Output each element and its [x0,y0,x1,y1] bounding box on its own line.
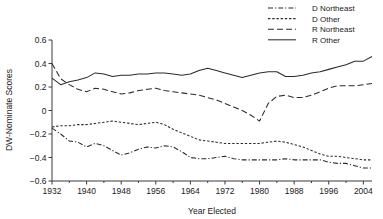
series-line-r-northeast [52,64,372,122]
x-tick-label: 1972 [216,186,235,196]
legend-label-2: R Northeast [312,25,355,34]
series-line-r-other [52,56,372,84]
x-axis-title: Year Elected [188,206,236,216]
x-tick-label: 1956 [146,186,165,196]
series-line-d-other [52,121,372,160]
legend-label-1: D Other [312,15,340,24]
y-tick-label: −0.6 [30,176,47,186]
series-lines [52,56,372,168]
y-tick-label: −0.2 [30,129,47,139]
x-tick-label: 1980 [250,186,269,196]
y-tick-label: 0.6 [35,35,47,45]
chart-canvas: −0.6−0.4−0.200.20.40.6193219401948195619… [0,0,383,219]
y-tick-label: 0.2 [35,82,47,92]
x-tick-label: 2004 [354,186,373,196]
x-tick-label: 1940 [77,186,96,196]
x-tick-label: 1988 [285,186,304,196]
y-tick-label: 0 [42,106,47,116]
x-tick-label: 1964 [181,186,200,196]
x-tick-label: 1932 [43,186,62,196]
series-line-d-northeast [52,128,372,168]
chart-figure: −0.6−0.4−0.200.20.40.6193219401948195619… [0,0,383,219]
y-axis-title: DW-Nominate Scores [4,69,14,151]
x-tick-label: 1996 [319,186,338,196]
x-tick-label: 1948 [112,186,131,196]
legend-label-3: R Other [312,36,340,45]
legend-label-0: D Northeast [312,4,355,13]
y-tick-label: −0.4 [30,153,47,163]
tick-labels: −0.6−0.4−0.200.20.40.6193219401948195619… [30,35,373,196]
chart-legend: D NortheastD OtherR NortheastR Other [268,4,355,45]
y-tick-label: 0.4 [35,59,47,69]
axes [49,40,373,185]
